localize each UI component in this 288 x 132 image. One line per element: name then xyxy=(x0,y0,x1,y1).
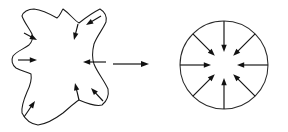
transition-arrow xyxy=(113,61,149,67)
blob-normal-3-head xyxy=(86,19,94,25)
circle-normal-nw xyxy=(193,34,215,56)
circle-normal-sw-shaft xyxy=(193,78,211,96)
circle-normal-ne-shaft xyxy=(237,34,255,52)
blob-normal-5-head xyxy=(83,59,90,64)
blob-outline xyxy=(12,9,108,125)
transition-arrow-group xyxy=(113,61,149,67)
irregular-blob-group xyxy=(12,9,108,125)
circle-normal-w xyxy=(180,62,211,67)
circle-normal-n xyxy=(221,21,226,52)
circle-normal-s-head xyxy=(221,78,226,85)
blob-normal-1 xyxy=(24,33,37,40)
blob-arrow-group xyxy=(18,16,106,117)
blob-normal-8 xyxy=(24,101,35,117)
blob-normal-4 xyxy=(18,57,37,62)
figure-canvas xyxy=(0,0,288,132)
blob-normal-2 xyxy=(73,24,78,40)
blob-normal-6 xyxy=(74,83,79,100)
circle-normal-e-head xyxy=(237,62,244,67)
blob-normal-6-head xyxy=(74,83,79,91)
figure-root xyxy=(0,0,288,132)
blob-normal-7 xyxy=(91,88,103,101)
blob-normal-2-head xyxy=(73,32,78,40)
circle-normal-se-shaft xyxy=(237,78,255,96)
blob-normal-8-head xyxy=(29,101,35,108)
blob-normal-1-head xyxy=(29,34,37,40)
circle-normal-sw xyxy=(193,74,215,96)
transition-arrow-head xyxy=(141,61,149,67)
circle-group xyxy=(180,21,268,109)
circle-normal-w-head xyxy=(204,62,211,67)
circle-normal-se xyxy=(233,74,255,96)
circle-normal-s xyxy=(221,78,226,109)
circle-normal-ne xyxy=(233,34,255,56)
blob-normal-3 xyxy=(86,16,101,25)
blob-normal-8-shaft xyxy=(24,105,32,117)
circle-normal-e xyxy=(237,62,268,67)
circle-normal-nw-shaft xyxy=(193,34,211,52)
circle-normal-n-head xyxy=(221,45,226,52)
blob-normal-4-head xyxy=(30,57,37,62)
circle-arrow-group xyxy=(180,21,268,109)
